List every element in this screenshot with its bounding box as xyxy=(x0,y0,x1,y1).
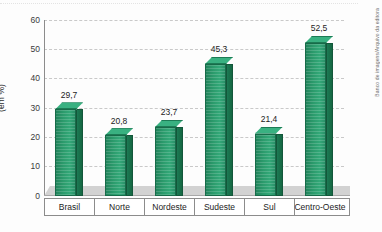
bar-brasil xyxy=(55,102,83,196)
y-tick-label-50: 50 xyxy=(14,45,40,54)
bar-3d-body xyxy=(155,127,176,196)
bar-value-label: 20,8 xyxy=(97,117,141,126)
category-label-row: BrasilNorteNordesteSudesteSulCentro-Oest… xyxy=(44,198,350,216)
bar-side-face xyxy=(76,109,83,196)
bar-front-face xyxy=(305,43,326,196)
bar-side-face xyxy=(326,43,333,196)
category-label-sul: Sul xyxy=(245,199,295,215)
bars-layer: 29,720,823,745,321,452,5 xyxy=(44,20,350,196)
bar-side-face xyxy=(176,127,183,196)
category-label-norte: Norte xyxy=(95,199,145,215)
bar-sul xyxy=(255,127,283,196)
y-tick-label-40: 40 xyxy=(14,74,40,83)
bar-top-face xyxy=(155,120,183,127)
bar-front-face xyxy=(255,134,276,196)
category-label-sudeste: Sudeste xyxy=(195,199,245,215)
category-label-centro-oeste: Centro-Oeste xyxy=(295,199,345,215)
bar-top-face xyxy=(55,102,83,109)
bar-sudeste xyxy=(205,57,233,196)
bar-value-label: 52,5 xyxy=(297,24,341,33)
y-tick-label-20: 20 xyxy=(14,132,40,141)
bar-3d-body xyxy=(255,134,276,196)
bar-top-face xyxy=(305,36,333,43)
bar-top-face xyxy=(205,57,233,64)
category-label-nordeste: Nordeste xyxy=(145,199,195,215)
bar-nordeste xyxy=(155,120,183,196)
bar-3d-body xyxy=(105,135,126,196)
bar-top-face xyxy=(105,128,133,135)
top-dotted-rule xyxy=(0,3,358,5)
image-credit: Banco de imagens/Arquivo da editora xyxy=(374,8,380,97)
y-tick-label-10: 10 xyxy=(14,162,40,171)
bar-side-face xyxy=(126,135,133,196)
bar-3d-body xyxy=(305,43,326,196)
bar-top-face xyxy=(255,127,283,134)
bar-side-face xyxy=(226,64,233,196)
bar-side-face xyxy=(276,134,283,196)
bar-front-face xyxy=(155,127,176,196)
bar-centro-oeste xyxy=(305,36,333,196)
y-axis-title: (em %) xyxy=(0,84,6,112)
bar-front-face xyxy=(105,135,126,196)
bar-norte xyxy=(105,128,133,196)
bar-3d-body xyxy=(205,64,226,196)
y-tick-label-0: 0 xyxy=(14,192,40,201)
bar-3d-body xyxy=(55,109,76,196)
bar-front-face xyxy=(55,109,76,196)
bar-value-label: 29,7 xyxy=(47,91,91,100)
bar-chart-figure: 60 50 40 30 20 10 0 (em %) 29,720,823,74… xyxy=(0,0,382,232)
bar-value-label: 21,4 xyxy=(247,115,291,124)
bar-value-label: 45,3 xyxy=(197,45,241,54)
y-tick-label-30: 30 xyxy=(14,103,40,112)
bar-value-label: 23,7 xyxy=(147,108,191,117)
category-label-brasil: Brasil xyxy=(45,199,95,215)
bar-front-face xyxy=(205,64,226,196)
y-tick-label-60: 60 xyxy=(14,16,40,25)
